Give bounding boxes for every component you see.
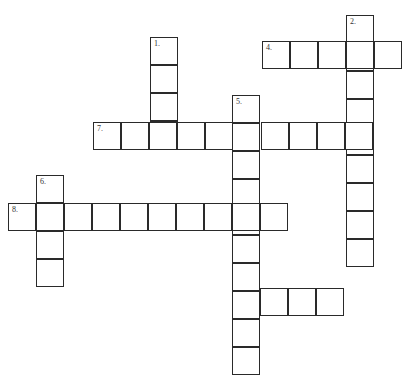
clue-number: 5. xyxy=(236,98,242,106)
crossword-cell[interactable] xyxy=(150,65,178,93)
crossword-cell[interactable] xyxy=(346,155,374,183)
crossword-cell[interactable] xyxy=(176,203,204,231)
clue-number: 8. xyxy=(12,206,18,214)
crossword-cell[interactable]: 6. xyxy=(36,175,64,203)
crossword-grid: 1.2.3.4.5.6.7.8. xyxy=(0,0,414,381)
crossword-cell[interactable] xyxy=(345,122,373,150)
crossword-cell[interactable] xyxy=(374,41,402,69)
crossword-cell[interactable] xyxy=(232,347,260,375)
crossword-cell[interactable] xyxy=(316,288,344,316)
crossword-cell[interactable]: 5. xyxy=(232,95,260,123)
crossword-cell[interactable] xyxy=(260,288,288,316)
crossword-cell[interactable] xyxy=(177,122,205,150)
crossword-cell[interactable]: 2. xyxy=(346,15,374,43)
crossword-cell[interactable] xyxy=(261,122,289,150)
crossword-cell[interactable]: 1. xyxy=(150,37,178,65)
clue-number: 4. xyxy=(266,44,272,52)
crossword-cell[interactable] xyxy=(232,263,260,291)
crossword-cell[interactable] xyxy=(346,239,374,267)
crossword-cell[interactable] xyxy=(148,203,176,231)
crossword-cell[interactable]: 7. xyxy=(93,122,121,150)
crossword-cell[interactable] xyxy=(64,203,92,231)
crossword-cell[interactable] xyxy=(36,259,64,287)
crossword-cell[interactable] xyxy=(232,291,260,319)
crossword-cell[interactable] xyxy=(290,41,318,69)
crossword-cell[interactable]: 8. xyxy=(8,203,36,231)
crossword-cell[interactable] xyxy=(317,122,345,150)
crossword-cell[interactable] xyxy=(232,151,260,179)
crossword-cell[interactable] xyxy=(346,211,374,239)
crossword-cell[interactable] xyxy=(232,203,260,231)
crossword-cell[interactable] xyxy=(92,203,120,231)
clue-number: 6. xyxy=(40,178,46,186)
crossword-cell[interactable]: 4. xyxy=(262,41,290,69)
crossword-cell[interactable] xyxy=(150,93,178,121)
crossword-cell[interactable] xyxy=(205,122,233,150)
crossword-cell[interactable] xyxy=(346,71,374,99)
crossword-cell[interactable] xyxy=(260,203,288,231)
crossword-cell[interactable] xyxy=(346,183,374,211)
crossword-cell[interactable] xyxy=(232,319,260,347)
crossword-cell[interactable] xyxy=(121,122,149,150)
clue-number: 2. xyxy=(350,18,356,26)
crossword-cell[interactable] xyxy=(232,235,260,263)
crossword-cell[interactable] xyxy=(346,41,374,69)
crossword-cell[interactable] xyxy=(204,203,232,231)
crossword-cell[interactable] xyxy=(120,203,148,231)
clue-number: 1. xyxy=(154,40,160,48)
crossword-cell[interactable] xyxy=(232,123,260,151)
crossword-cell[interactable] xyxy=(289,122,317,150)
crossword-cell[interactable] xyxy=(36,203,64,231)
clue-number: 7. xyxy=(97,125,103,133)
crossword-cell[interactable] xyxy=(36,231,64,259)
crossword-cell[interactable] xyxy=(149,122,177,150)
crossword-cell[interactable] xyxy=(318,41,346,69)
crossword-cell[interactable] xyxy=(288,288,316,316)
